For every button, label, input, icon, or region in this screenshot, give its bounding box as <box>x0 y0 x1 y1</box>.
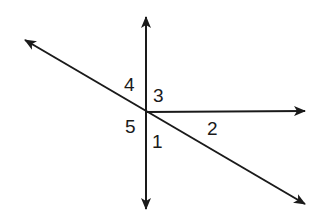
angle-label-1: 1 <box>152 131 163 152</box>
angle-label-4: 4 <box>124 74 135 95</box>
angle-label-5: 5 <box>125 116 136 137</box>
diagonal-line <box>25 40 305 204</box>
angle-label-2: 2 <box>207 118 218 139</box>
horizontal-ray <box>146 111 305 112</box>
angle-diagram: 4 3 5 1 2 <box>0 0 322 222</box>
angle-label-3: 3 <box>153 85 164 106</box>
